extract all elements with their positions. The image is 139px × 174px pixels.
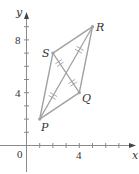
y-tick-label-4: 4 <box>15 87 21 99</box>
y-axis-arrow-icon <box>24 12 29 19</box>
y-tick-label-8: 8 <box>15 34 21 46</box>
edge-rs <box>53 27 93 53</box>
label-r: R <box>95 21 104 34</box>
edge-qr <box>79 27 92 93</box>
origin-label: 0 <box>17 148 23 160</box>
label-s: S <box>42 47 50 60</box>
edge-pq <box>40 93 80 119</box>
point-r <box>91 25 94 28</box>
label-q: Q <box>82 92 91 105</box>
point-q <box>78 91 81 94</box>
x-axis-label: x <box>132 149 139 162</box>
label-p: P <box>40 121 49 134</box>
point-s <box>51 52 54 55</box>
x-axis-arrow-icon <box>129 143 136 148</box>
diagonals <box>40 27 93 119</box>
y-axis-label: y <box>15 6 23 19</box>
diagonal-sq <box>53 53 79 93</box>
edge-sp <box>40 53 53 119</box>
x-tick-label-4: 4 <box>76 149 82 161</box>
coordinate-diagram: y x 0 4 4 8 <box>0 0 139 174</box>
